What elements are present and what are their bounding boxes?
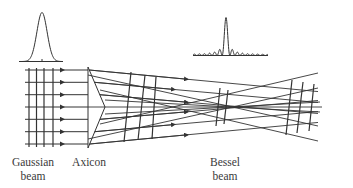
bessel-profile-icon	[193, 18, 268, 56]
gaussian-beam-label-line2: beam	[12, 169, 54, 183]
axicon-label: Axicon	[72, 155, 106, 169]
axicon-label-text: Axicon	[72, 155, 106, 169]
gaussian-beam-label: Gaussian beam	[12, 155, 54, 183]
bessel-beam-label-line1: Bessel	[210, 155, 240, 169]
gaussian-beam-rays	[25, 68, 88, 147]
bessel-beam-label: Bessel beam	[210, 155, 240, 183]
bessel-beam-rays	[88, 70, 322, 144]
gaussian-beam-label-line1: Gaussian	[12, 155, 54, 169]
bessel-beam-label-line2: beam	[210, 169, 240, 183]
gaussian-profile-icon	[19, 13, 63, 63]
